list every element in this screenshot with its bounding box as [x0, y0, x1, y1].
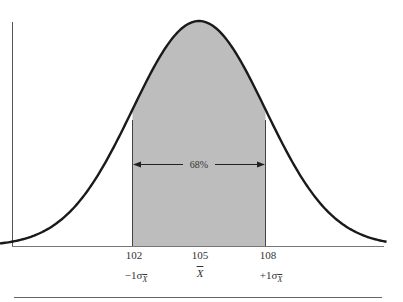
tick-label-105: 105 — [192, 249, 209, 261]
tick-label-102: 102 — [126, 249, 143, 261]
tick-label-108: 108 — [260, 249, 277, 261]
percent-label: 68% — [187, 159, 211, 170]
sigma-subscript: X — [142, 275, 147, 284]
minus-one-sigma-label: −1σX — [125, 269, 148, 281]
sigma-subscript: X — [277, 275, 282, 284]
plus-one-sigma-label: +1σX — [260, 269, 283, 281]
shaded-68-percent-region — [133, 21, 266, 246]
mean-symbol: X — [197, 267, 204, 279]
mean-label: X — [197, 267, 204, 279]
